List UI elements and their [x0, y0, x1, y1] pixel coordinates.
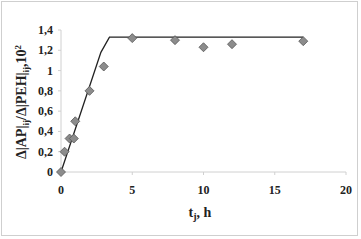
x-tick-label: 5 — [129, 183, 135, 197]
data-point — [128, 34, 137, 43]
x-tick-label: 15 — [269, 183, 281, 197]
x-tick-label: 20 — [340, 183, 352, 197]
data-point — [299, 37, 308, 46]
y-axis-label: Δ|AP|ij/Δ|PEH|ij,102 — [13, 44, 31, 159]
data-point — [228, 40, 237, 49]
data-point — [99, 62, 108, 71]
y-tick-label: 0,8 — [38, 84, 53, 98]
y-tick-label: 1,4 — [38, 23, 53, 37]
y-tick-label: 0 — [47, 165, 53, 179]
data-point — [57, 168, 66, 177]
y-tick-label: 0,4 — [38, 124, 53, 138]
y-tick-label: 1 — [47, 64, 53, 78]
y-tick-label: 0,2 — [38, 145, 53, 159]
y-tick-label: 1,2 — [38, 43, 53, 57]
data-point — [199, 43, 208, 52]
x-tick-label: 10 — [198, 183, 210, 197]
chart: 00,20,40,60,811,21,405101520 tj, h Δ|AP|… — [0, 0, 361, 239]
series — [57, 34, 308, 177]
y-tick-label: 0,6 — [38, 104, 53, 118]
model-line — [61, 37, 303, 172]
x-tick-label: 0 — [58, 183, 64, 197]
tick-labels: 00,20,40,60,811,21,405101520 — [38, 23, 352, 197]
x-axis-label: tj, h — [189, 205, 212, 222]
